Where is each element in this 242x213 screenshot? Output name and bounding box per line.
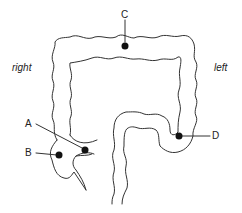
colon-diagram: right left C A B D xyxy=(0,0,242,213)
marker-label-a: A xyxy=(25,119,32,129)
marker-label-d: D xyxy=(212,131,219,141)
marker-dot-d xyxy=(176,133,183,140)
pointer-line-a xyxy=(36,124,84,149)
marker-label-b: B xyxy=(25,148,32,158)
marker-label-c: C xyxy=(121,10,128,20)
pointer-line-b xyxy=(36,153,57,155)
colon-outline xyxy=(0,0,242,213)
marker-dot-a xyxy=(82,147,89,154)
side-label-right: right xyxy=(12,63,31,73)
side-label-left: left xyxy=(214,63,227,73)
marker-dot-b xyxy=(56,152,63,159)
colon-outer-wall xyxy=(52,35,197,204)
ileum-upper xyxy=(70,135,97,143)
marker-dot-c xyxy=(122,43,129,50)
